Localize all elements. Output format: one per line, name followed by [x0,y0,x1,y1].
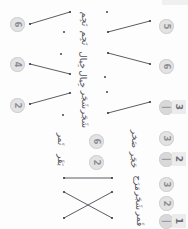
connector-layer [0,0,188,229]
connector-endpoint-dot [111,177,113,179]
connector-endpoint-dot [69,11,71,13]
right-badge-2[interactable]: 2 [159,196,174,211]
worksheet-canvas: 6425633262321ﻧَﺠِﻢﻧَﺠِﻢﺧِﻴﺎﻝﺧِﻴﺎﻝﺷَﺠَﺮﺷَ… [0,0,188,229]
left-badge-2[interactable]: 2 [10,98,25,113]
handwritten-word: ﺧِﻴﺎﻝ [78,51,88,69]
connector-endpoint-dot [149,63,151,65]
left-badge-6[interactable]: 6 [10,17,25,32]
connector-endpoint-dot [107,52,109,54]
handwritten-word: ﻧَﺠِﻢ [80,31,90,45]
connector-endpoint-dot [107,31,109,33]
inline-badge-6[interactable]: 6 [89,134,104,149]
left-badge-4[interactable]: 4 [10,57,25,72]
connector-endpoint-dot [111,191,113,193]
connector-endpoint-dot [69,73,71,75]
right-badge-6[interactable]: 6 [159,59,174,74]
connector-endpoint-dot [111,217,113,219]
connector-endpoint-dot [29,23,31,25]
connector-line[interactable] [30,93,70,104]
handwritten-word: ﻧَﺠِﻢ [80,12,90,26]
answer-number-chip-2: 2 [172,152,186,166]
answer-number-chip-3: 3 [172,100,186,114]
connector-endpoint-dot [63,191,65,193]
connector-endpoint-dot [69,92,71,94]
handwritten-word: ﺑَﻘَﺮ [56,154,66,166]
connector-endpoint-dot [149,20,151,22]
ink-bullet-dot [106,11,108,13]
handwritten-word: ﺷَﺠَﺮ [134,192,144,210]
connector-line[interactable] [108,53,150,64]
connector-line[interactable] [64,192,112,218]
handwritten-word: ﻗَﻤﺮ [135,212,145,226]
connector-line[interactable] [108,21,150,32]
ink-bullet-dot [60,53,62,55]
ink-bullet-dot [63,31,65,33]
ink-bullet-dot [104,76,106,78]
handwritten-word: ﺗَﻤﺮ [56,133,66,146]
answer-number-chip-1: 1 [172,214,186,228]
connector-line[interactable] [108,102,150,113]
handwritten-word: ﺷَﺠَﺮ [80,110,90,128]
connector-endpoint-dot [63,217,65,219]
connector-endpoint-dot [29,103,31,105]
handwritten-word: ﺻَﺨﺮ [130,130,140,148]
connector-endpoint-dot [149,101,151,103]
connector-line[interactable] [64,192,112,218]
handwritten-word: ﺣَﺠَﺮ [129,152,139,168]
connector-endpoint-dot [29,63,31,65]
right-badge-3[interactable]: 3 [159,131,174,146]
right-badge-5[interactable]: 5 [159,19,174,34]
connector-endpoint-dot [63,177,65,179]
ink-bullet-dot [106,91,108,93]
inline-badge-2[interactable]: 2 [89,155,104,170]
paper-edge [162,0,188,5]
ink-bullet-dot [62,114,64,116]
connector-endpoint-dot [107,112,109,114]
handwritten-word: ﺷَﺠَﺮ [80,91,90,109]
handwritten-word: ﻣَﺮَﺝ [133,175,143,191]
connector-line[interactable] [30,12,70,24]
connector-line[interactable] [30,64,70,74]
handwritten-word: ﺧِﻴﺎﻝ [78,70,88,88]
right-badge-3[interactable]: 3 [159,177,174,192]
